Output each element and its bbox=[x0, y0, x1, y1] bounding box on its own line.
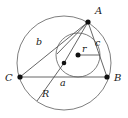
geometry-figure: A B C a b c r R bbox=[0, 0, 128, 118]
circumcenter-dot bbox=[62, 61, 67, 66]
incenter-dot bbox=[76, 53, 81, 58]
vertex-a-dot bbox=[85, 19, 90, 24]
side-label-c: c bbox=[95, 37, 101, 48]
inradius-label: r bbox=[82, 43, 88, 54]
circumradius-label: R bbox=[41, 88, 49, 99]
vertex-label-a: A bbox=[94, 5, 102, 16]
figure-canvas: A B C a b c r R bbox=[0, 0, 128, 118]
vertex-label-b: B bbox=[113, 72, 121, 83]
vertex-b-dot bbox=[104, 74, 109, 79]
side-label-a: a bbox=[60, 77, 66, 88]
vertex-c-dot bbox=[17, 74, 22, 79]
vertex-label-c: C bbox=[5, 72, 13, 83]
side-label-b: b bbox=[36, 36, 42, 47]
